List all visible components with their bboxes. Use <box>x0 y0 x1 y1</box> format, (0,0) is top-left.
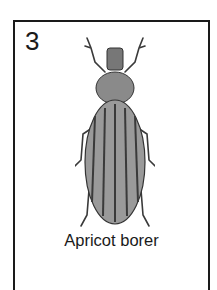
beetle-illustration <box>75 30 155 230</box>
card-caption: Apricot borer <box>15 231 208 250</box>
card-number: 3 <box>25 28 39 54</box>
species-card: 3 Apricot borer <box>13 20 210 290</box>
